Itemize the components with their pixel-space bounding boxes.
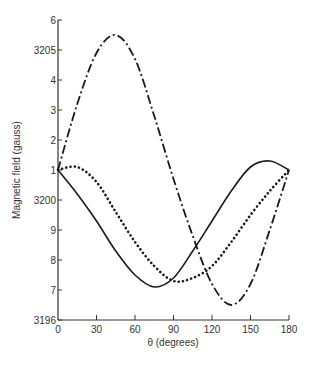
y-tick-label: 9 [50,225,56,236]
x-tick-label: 30 [91,324,103,335]
y-axis-label: Magnetic field (gauss) [11,121,22,219]
y-tick-label: 1 [50,165,56,176]
magnetic-field-chart: 319678932001234320560306090120150180 θ (… [0,0,309,367]
x-axis-label: θ (degrees) [147,337,198,348]
series-group [58,35,289,305]
y-tick-label: 3200 [34,195,57,206]
series-dash-dot-line [58,35,289,305]
axes: 319678932001234320560306090120150180 [34,15,298,336]
y-tick-label: 3196 [34,315,57,326]
y-tick-label: 3205 [34,45,57,56]
y-tick-label: 7 [50,285,56,296]
y-tick-label: 4 [50,75,56,86]
y-tick-label: 6 [50,15,56,26]
x-tick-label: 150 [242,324,259,335]
x-tick-label: 60 [129,324,141,335]
y-tick-label: 3 [50,105,56,116]
y-tick-label: 2 [50,135,56,146]
series-dotted-line [58,166,289,281]
x-tick-label: 0 [55,324,61,335]
x-tick-label: 180 [281,324,298,335]
x-tick-label: 120 [204,324,221,335]
x-tick-label: 90 [168,324,180,335]
y-tick-label: 8 [50,255,56,266]
